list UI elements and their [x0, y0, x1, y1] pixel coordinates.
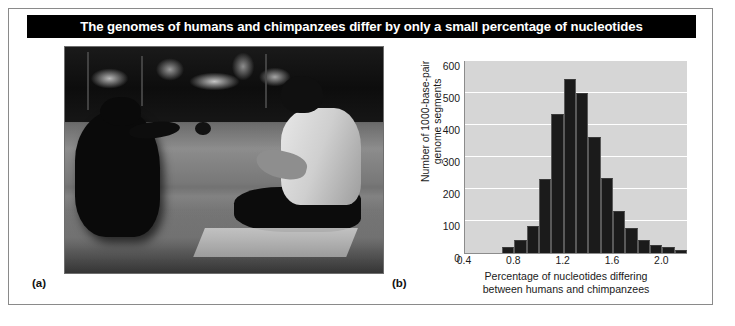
histogram-bar	[650, 245, 662, 253]
page-title: The genomes of humans and chimpanzees di…	[80, 19, 642, 34]
photo-post-left	[87, 52, 89, 111]
x-axis-label: Percentage of nucleotides differing betw…	[438, 270, 694, 296]
x-tick-label: 1.6	[605, 255, 619, 266]
photo-chimpanzee-head	[100, 97, 141, 126]
histogram-bar	[527, 226, 539, 253]
photo-ground-mat	[193, 228, 357, 257]
histogram-bar	[613, 211, 625, 253]
x-tick-label: 0.8	[506, 255, 520, 266]
panel-a-photograph: (a)	[20, 43, 390, 295]
x-tick-label: 1.2	[555, 255, 569, 266]
figure-card: The genomes of humans and chimpanzees di…	[8, 8, 713, 305]
x-axis-ticks: 0.40.81.21.62.0	[464, 255, 686, 269]
photo-post-mid	[141, 56, 143, 106]
panel-label-b: (b)	[392, 277, 407, 289]
histogram-bars	[465, 61, 687, 253]
photo-post-right	[265, 54, 267, 108]
panel-label-a: (a)	[32, 277, 46, 289]
histogram-bar	[662, 247, 674, 253]
histogram-bar	[551, 114, 563, 253]
histogram-bar	[502, 247, 514, 253]
histogram-bar	[625, 228, 637, 253]
panel-b-histogram: Number of 1000-base-pair genome segments…	[390, 43, 702, 295]
figure-title-banner: The genomes of humans and chimpanzees di…	[27, 15, 696, 38]
y-axis-ticks: 0100200300400500600	[434, 61, 460, 253]
histogram-chart: Number of 1000-base-pair genome segments…	[404, 47, 696, 295]
histogram-bar	[601, 178, 613, 253]
histogram-bar	[638, 240, 650, 253]
photo-human-head	[281, 76, 322, 112]
histogram-bar	[514, 240, 526, 253]
x-tick-label: 2.0	[654, 255, 668, 266]
histogram-bar	[564, 79, 576, 253]
histogram-bar	[539, 179, 551, 253]
plot-area	[464, 61, 687, 254]
histogram-bar	[576, 93, 588, 253]
histogram-bar	[675, 250, 687, 253]
histogram-bar	[588, 137, 600, 253]
x-tick-label: 0.4	[457, 255, 471, 266]
chimp-human-photo	[64, 46, 384, 274]
